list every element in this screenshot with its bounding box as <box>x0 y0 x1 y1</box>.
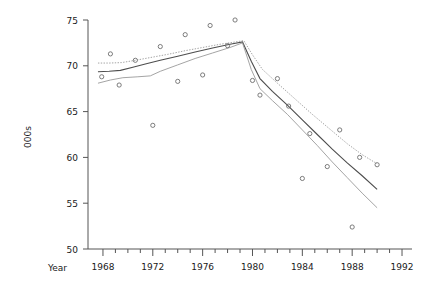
series-lower-band <box>98 43 377 208</box>
data-point <box>158 44 162 48</box>
data-point <box>201 73 205 77</box>
x-tick-label: 1976 <box>191 262 214 272</box>
data-point <box>117 83 121 87</box>
x-tick-label: 1992 <box>391 262 414 272</box>
data-point <box>308 131 312 135</box>
scatter-plot-svg: 505560657075 196819721976198019841988199… <box>0 0 432 293</box>
data-point <box>375 163 379 167</box>
x-tick-label: 1984 <box>291 262 314 272</box>
x-tick-label: 1968 <box>92 262 115 272</box>
y-axis-title: 000s <box>23 126 33 148</box>
y-tick-label: 70 <box>67 61 79 71</box>
data-point <box>358 155 362 159</box>
data-point <box>258 93 262 97</box>
chart-container: 505560657075 196819721976198019841988199… <box>0 0 432 293</box>
data-point <box>275 77 279 81</box>
data-point <box>108 52 112 56</box>
x-axis-title: Year <box>47 263 67 273</box>
series-upper-band <box>98 41 377 164</box>
y-tick-group: 505560657075 <box>67 16 88 255</box>
data-point <box>208 23 212 27</box>
data-point <box>250 78 254 82</box>
x-tick-group: 1968197219761980198419881992 <box>92 249 414 272</box>
y-tick-label: 50 <box>67 245 79 255</box>
y-tick-label: 55 <box>67 199 78 209</box>
data-point <box>350 225 354 229</box>
series-fit <box>98 42 377 189</box>
x-axis: 1968197219761980198419881992 <box>88 249 413 272</box>
x-tick-label: 1972 <box>141 262 164 272</box>
fitted-lines-group <box>98 41 377 208</box>
data-point <box>100 75 104 79</box>
data-point <box>176 79 180 83</box>
data-point <box>325 164 329 168</box>
data-point <box>151 123 155 127</box>
y-tick-label: 60 <box>67 153 79 163</box>
data-point <box>183 33 187 37</box>
data-point <box>300 176 304 180</box>
y-tick-label: 75 <box>67 16 78 26</box>
y-tick-label: 65 <box>67 107 78 117</box>
data-points-group <box>100 18 380 229</box>
data-point <box>338 128 342 132</box>
x-tick-label: 1980 <box>241 262 264 272</box>
y-axis: 505560657075 <box>67 16 88 255</box>
data-point <box>233 18 237 22</box>
x-tick-label: 1988 <box>341 262 364 272</box>
